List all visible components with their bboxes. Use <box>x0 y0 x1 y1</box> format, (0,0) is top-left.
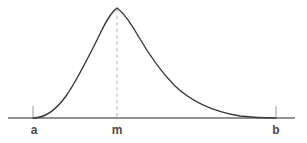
density-curve <box>33 8 276 118</box>
distribution-plot <box>0 0 307 143</box>
axis-tick-label-m: m <box>107 124 127 136</box>
axis-tick-label-b: b <box>266 124 286 136</box>
axis-tick-label-a: a <box>24 124 44 136</box>
distribution-figure: a m b <box>0 0 307 143</box>
